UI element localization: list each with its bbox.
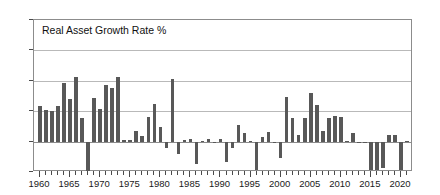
bar-2006 — [315, 105, 319, 142]
bar-1964 — [62, 83, 66, 142]
bar-2007 — [321, 131, 325, 142]
bar-1967 — [80, 118, 84, 142]
bar-1975 — [128, 140, 132, 141]
x-tick-1973 — [117, 171, 118, 175]
x-tick-1968 — [87, 171, 88, 175]
bar-1963 — [56, 106, 60, 141]
x-tick-1975 — [129, 171, 130, 177]
x-tick-1977 — [141, 171, 142, 175]
real-asset-growth-rate-chart: −10010203040 196019651970197519801985199… — [0, 0, 440, 195]
x-tick-label-2000: 2000 — [263, 179, 297, 189]
x-tick-label-1980: 1980 — [142, 179, 176, 189]
x-tick-label-1985: 1985 — [172, 179, 206, 189]
x-tick-2012 — [352, 171, 353, 175]
x-tick-1990 — [219, 171, 220, 177]
bar-1990 — [219, 139, 223, 142]
x-tick-2002 — [292, 171, 293, 175]
x-tick-1980 — [159, 171, 160, 177]
bar-1983 — [177, 142, 181, 154]
x-tick-label-2015: 2015 — [353, 179, 387, 189]
bar-1982 — [171, 79, 175, 142]
x-tick-2011 — [346, 171, 347, 175]
x-tick-1983 — [177, 171, 178, 175]
x-tick-2004 — [304, 171, 305, 175]
x-tick-1987 — [201, 171, 202, 175]
x-tick-label-1975: 1975 — [112, 179, 146, 189]
bar-1981 — [165, 142, 169, 148]
x-tick-2006 — [316, 171, 317, 175]
x-tick-1988 — [207, 171, 208, 175]
x-tick-2016 — [376, 171, 377, 175]
x-tick-1972 — [111, 171, 112, 175]
bar-2000 — [279, 142, 283, 158]
bar-1997 — [261, 137, 265, 141]
bar-1974 — [122, 140, 126, 142]
bar-1968 — [86, 142, 90, 171]
x-tick-label-2005: 2005 — [293, 179, 327, 189]
bar-1984 — [183, 140, 187, 141]
x-tick-label-2010: 2010 — [323, 179, 357, 189]
bar-1986 — [195, 142, 199, 165]
x-tick-2010 — [340, 171, 341, 177]
x-tick-label-1960: 1960 — [22, 179, 56, 189]
x-tick-2000 — [280, 171, 281, 177]
bar-2009 — [333, 116, 337, 141]
bar-2001 — [285, 97, 289, 142]
bar-1971 — [104, 85, 108, 141]
bar-1978 — [147, 117, 151, 142]
x-tick-1984 — [183, 171, 184, 175]
bar-1991 — [225, 142, 229, 162]
x-tick-2019 — [394, 171, 395, 175]
x-tick-2003 — [298, 171, 299, 175]
bar-2003 — [297, 135, 301, 142]
x-tick-1970 — [99, 171, 100, 177]
bar-1973 — [116, 77, 120, 142]
bar-1980 — [159, 127, 163, 142]
bar-1976 — [134, 131, 138, 141]
bar-1996 — [255, 142, 259, 170]
bar-2014 — [363, 142, 367, 143]
bar-2008 — [327, 118, 331, 141]
x-tick-1999 — [274, 171, 275, 175]
bar-2013 — [357, 142, 361, 143]
bar-1965 — [68, 99, 72, 141]
bar-1979 — [153, 104, 157, 141]
bar-1999 — [273, 142, 277, 144]
gridline-30 — [34, 50, 411, 51]
x-tick-1998 — [268, 171, 269, 175]
bar-1970 — [98, 109, 102, 142]
x-tick-1969 — [93, 171, 94, 175]
bar-1969 — [92, 98, 96, 141]
x-tick-2018 — [388, 171, 389, 175]
bar-1960 — [38, 106, 42, 142]
bar-1985 — [189, 139, 193, 142]
bar-2015 — [369, 142, 373, 170]
bar-1994 — [243, 133, 247, 142]
bar-2010 — [339, 117, 343, 142]
x-tick-1964 — [63, 171, 64, 175]
bar-1989 — [213, 142, 217, 143]
x-tick-2013 — [358, 171, 359, 175]
x-tick-1995 — [250, 171, 251, 177]
bar-2021 — [405, 141, 409, 142]
x-tick-1996 — [256, 171, 257, 175]
x-tick-1993 — [238, 171, 239, 175]
x-tick-1986 — [195, 171, 196, 175]
x-tick-1962 — [51, 171, 52, 175]
chart-title: Real Asset Growth Rate % — [42, 25, 166, 36]
y-tick-mark--10 — [29, 171, 33, 172]
bar-1993 — [237, 125, 241, 141]
bar-2011 — [345, 141, 349, 142]
x-tick-2017 — [382, 171, 383, 175]
bar-2018 — [387, 135, 391, 141]
bar-2012 — [351, 133, 355, 141]
x-tick-1978 — [147, 171, 148, 175]
x-tick-2007 — [322, 171, 323, 175]
x-tick-1981 — [165, 171, 166, 175]
x-tick-2001 — [286, 171, 287, 175]
x-tick-1961 — [45, 171, 46, 175]
x-tick-label-1990: 1990 — [202, 179, 236, 189]
bar-1977 — [140, 136, 144, 142]
x-tick-1966 — [75, 171, 76, 175]
bar-2020 — [399, 142, 403, 171]
